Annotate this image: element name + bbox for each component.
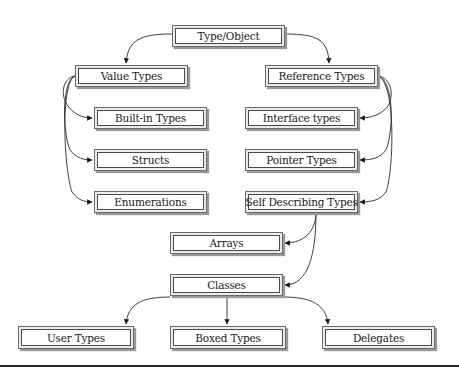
node-delegates: Delegates — [322, 326, 435, 349]
node-label: Pointer Types — [248, 152, 355, 168]
node-label: Self Describing Types — [248, 194, 355, 210]
node-label: Built-in Types — [97, 110, 204, 126]
node-user-types: User Types — [18, 326, 134, 349]
edge-classes-to-user-types — [126, 297, 170, 324]
bottom-divider — [0, 365, 459, 367]
node-arrays: Arrays — [170, 232, 283, 254]
edge-type-object-to-value-types — [126, 34, 172, 63]
node-label: Reference Types — [268, 68, 375, 84]
node-structs: Structs — [94, 149, 207, 171]
node-enumerations: Enumerations — [94, 191, 207, 213]
node-label: Interface types — [248, 110, 355, 126]
node-label: Type/Object — [175, 28, 282, 44]
node-label: Boxed Types — [173, 329, 283, 346]
node-interface-types: Interface types — [245, 107, 358, 129]
node-type-object: Type/Object — [172, 25, 285, 47]
node-self-describing-types: Self Describing Types — [245, 191, 358, 213]
node-reference-types: Reference Types — [265, 65, 378, 87]
node-label: Value Types — [78, 68, 185, 84]
node-value-types: Value Types — [75, 65, 188, 87]
edge-value-to-enumerations — [65, 76, 92, 202]
node-label: User Types — [21, 329, 131, 346]
node-label: Classes — [173, 277, 280, 293]
node-boxed-types: Boxed Types — [170, 326, 286, 349]
node-label: Enumerations — [97, 194, 204, 210]
node-label: Delegates — [325, 329, 432, 346]
type-hierarchy-diagram: Type/Object Value Types Reference Types … — [0, 0, 459, 376]
edge-classes-to-delegates — [283, 297, 328, 324]
edge-type-object-to-reference-types — [285, 34, 329, 63]
node-pointer-types: Pointer Types — [245, 149, 358, 171]
node-label: Structs — [97, 152, 204, 168]
edge-self-describing-to-arrays — [285, 213, 316, 243]
edge-self-describing-to-classes — [285, 213, 316, 285]
node-label: Arrays — [173, 235, 280, 251]
edge-reference-to-self-describing — [360, 76, 392, 202]
connector-layer — [0, 0, 459, 376]
node-builtin-types: Built-in Types — [94, 107, 207, 129]
node-classes: Classes — [170, 274, 283, 296]
